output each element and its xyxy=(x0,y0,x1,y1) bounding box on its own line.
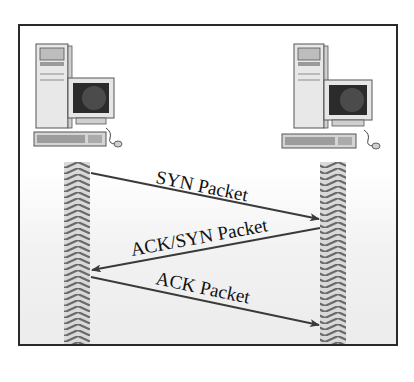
client-lifeline xyxy=(64,162,90,344)
ack-syn-label: ACK/SYN Packet xyxy=(129,214,270,260)
server-computer-icon xyxy=(282,44,380,149)
syn-label: SYN Packet xyxy=(154,166,250,205)
server-lifeline xyxy=(320,162,346,344)
ack-label: ACK Packet xyxy=(154,267,252,307)
client-computer-icon xyxy=(34,44,122,147)
handshake-diagram: SYN Packet ACK/SYN Packet ACK Packet xyxy=(0,0,414,382)
